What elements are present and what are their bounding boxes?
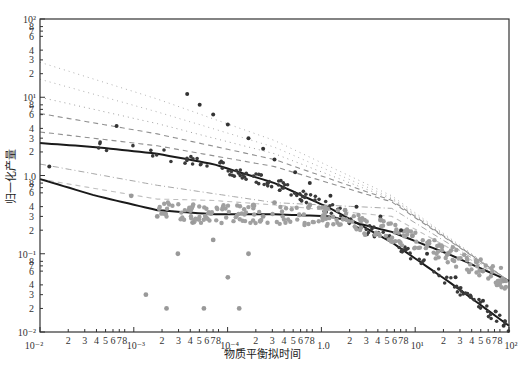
x-tick-label: 10¹ — [411, 340, 424, 351]
x-minor-tick-label: 8 — [497, 335, 502, 346]
x-minor-tick-label: 6 — [298, 335, 303, 346]
x-minor-tick-label: 3 — [457, 335, 462, 346]
y-minor-tick-label: 8 — [29, 99, 34, 110]
y-minor-tick-label: 3 — [29, 133, 34, 144]
x-minor-tick-label: 3 — [364, 335, 369, 346]
y-minor-tick-label: 8 — [29, 256, 34, 267]
y-minor-tick-label: 2 — [29, 68, 34, 79]
x-minor-tick-label: 2 — [160, 335, 165, 346]
y-minor-tick-label: 4 — [29, 45, 34, 56]
scatter-points — [47, 92, 510, 333]
x-minor-tick-label: 7 — [117, 335, 122, 346]
x-minor-tick-label: 6 — [110, 335, 115, 346]
x-tick-label: 1.0 — [317, 340, 330, 351]
y-minor-tick-label: 2 — [29, 225, 34, 236]
x-axis-label: 物质平衡拟时间 — [224, 347, 301, 361]
axes-frame — [40, 19, 509, 332]
x-minor-tick-label: 6 — [392, 335, 397, 346]
y-minor-tick-label: 2 — [29, 303, 34, 314]
y-minor-tick-label: 2 — [29, 146, 34, 157]
x-minor-tick-label: 5 — [384, 335, 389, 346]
y-minor-tick-label: 4 — [29, 123, 34, 134]
y-minor-tick-label: 8 — [29, 178, 34, 189]
y-minor-tick-label: 3 — [29, 289, 34, 300]
x-minor-tick-label: 7 — [398, 335, 403, 346]
x-minor-tick-label: 7 — [304, 335, 309, 346]
chart-canvas: 10⁻²234567810⁻³234567810⁻⁴23456781.02345… — [0, 0, 524, 372]
y-tick-label: 10⁻² — [18, 327, 36, 338]
x-minor-tick-label: 7 — [211, 335, 216, 346]
x-minor-tick-label: 3 — [270, 335, 275, 346]
y-minor-tick-label: 8 — [29, 21, 34, 32]
x-minor-tick-label: 4 — [375, 335, 380, 346]
x-minor-tick-label: 2 — [347, 335, 352, 346]
curve-type-curve-1-dotted- — [40, 62, 509, 281]
x-tick-label: 10² — [505, 340, 518, 351]
x-minor-tick-label: 2 — [253, 335, 258, 346]
x-minor-tick-label: 5 — [197, 335, 202, 346]
x-minor-tick-label: 8 — [404, 335, 409, 346]
y-minor-tick-label: 4 — [29, 201, 34, 212]
x-minor-tick-label: 5 — [103, 335, 108, 346]
x-minor-tick-label: 5 — [291, 335, 296, 346]
x-minor-tick-label: 4 — [469, 335, 474, 346]
x-minor-tick-label: 4 — [94, 335, 99, 346]
curve-type-curve-7-dashed- — [40, 179, 509, 281]
y-minor-tick-label: 3 — [29, 211, 34, 222]
x-minor-tick-label: 6 — [204, 335, 209, 346]
x-minor-tick-label: 2 — [66, 335, 71, 346]
x-minor-tick-label: 3 — [82, 335, 87, 346]
x-minor-tick-label: 4 — [188, 335, 193, 346]
curve-fitted-curve-lower — [40, 179, 509, 281]
plot-area — [40, 62, 510, 333]
x-minor-tick-label: 6 — [486, 335, 491, 346]
x-minor-tick-label: 5 — [478, 335, 483, 346]
x-minor-tick-label: 2 — [441, 335, 446, 346]
curve-fitted-curve-upper — [40, 143, 509, 326]
x-minor-tick-label: 4 — [282, 335, 287, 346]
x-minor-tick-label: 8 — [310, 335, 315, 346]
curve-type-curve-6-dash-dot- — [40, 164, 509, 281]
y-minor-tick-label: 4 — [29, 279, 34, 290]
y-axis-label: 归一化产量 — [4, 149, 18, 204]
x-tick-label: 10⁻² — [25, 340, 43, 351]
x-minor-tick-label: 7 — [492, 335, 497, 346]
x-minor-tick-label: 3 — [176, 335, 181, 346]
x-tick-label: 10⁻³ — [127, 340, 145, 351]
y-minor-tick-label: 3 — [29, 54, 34, 65]
